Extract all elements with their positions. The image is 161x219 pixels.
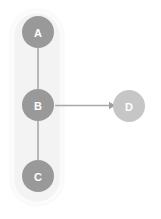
node-c[interactable]: C bbox=[22, 160, 54, 192]
node-b[interactable]: B bbox=[22, 89, 54, 121]
node-a-label: A bbox=[34, 27, 42, 39]
node-c-label: C bbox=[34, 171, 42, 183]
node-d[interactable]: D bbox=[113, 90, 145, 122]
node-b-label: B bbox=[34, 100, 42, 112]
graph-diagram: A B C D bbox=[0, 0, 161, 219]
node-a[interactable]: A bbox=[22, 16, 54, 48]
diagram-canvas: A B C D bbox=[0, 0, 161, 219]
node-d-label: D bbox=[125, 101, 133, 113]
